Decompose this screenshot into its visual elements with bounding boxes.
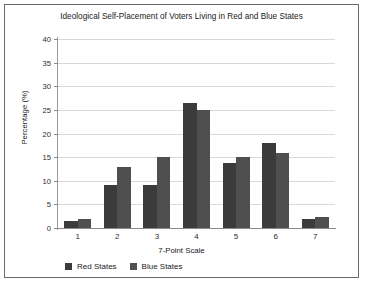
legend-label: Red States (77, 262, 117, 271)
y-tick-label: 35 (11, 58, 51, 67)
x-tick-label: 2 (102, 232, 132, 241)
legend-item-blue-states: Blue States (130, 262, 183, 271)
x-tick-label: 7 (300, 232, 330, 241)
bar-group (64, 39, 91, 228)
bar-blue-states-2 (117, 167, 131, 228)
legend-swatch-icon (65, 263, 72, 270)
bar-group (104, 39, 131, 228)
y-tick-mark (54, 228, 58, 229)
chart-title: Ideological Self-Placement of Voters Liv… (5, 12, 358, 21)
bar-blue-states-7 (315, 217, 329, 228)
x-tick-label: 4 (182, 232, 212, 241)
bar-red-states-3 (143, 185, 157, 228)
plot-area (58, 39, 335, 228)
legend-item-red-states: Red States (65, 262, 117, 271)
legend-swatch-icon (130, 263, 137, 270)
bar-blue-states-6 (276, 153, 290, 228)
bar-blue-states-1 (78, 219, 92, 228)
y-tick-label: 20 (11, 129, 51, 138)
y-tick-label: 5 (11, 200, 51, 209)
y-tick-label: 30 (11, 82, 51, 91)
x-tick-label: 3 (142, 232, 172, 241)
bar-group (223, 39, 250, 228)
y-tick-label: 15 (11, 153, 51, 162)
x-tick-label: 6 (261, 232, 291, 241)
y-tick-label: 25 (11, 105, 51, 114)
bar-red-states-5 (223, 163, 237, 228)
bar-red-states-2 (104, 185, 118, 228)
bar-group (183, 39, 210, 228)
x-tick-label: 5 (221, 232, 251, 241)
x-axis-line (57, 228, 336, 229)
y-tick-label: 40 (11, 35, 51, 44)
y-tick-label: 10 (11, 176, 51, 185)
bar-red-states-4 (183, 103, 197, 228)
bar-red-states-6 (262, 143, 276, 228)
bar-red-states-7 (302, 219, 316, 228)
bar-blue-states-4 (197, 110, 211, 228)
bar-group (262, 39, 289, 228)
bar-blue-states-3 (157, 157, 171, 228)
chart-figure: Ideological Self-Placement of Voters Liv… (4, 4, 359, 278)
x-axis-title: 7-Point Scale (5, 246, 358, 255)
bar-group (302, 39, 329, 228)
bar-group (143, 39, 170, 228)
x-tick-label: 1 (63, 232, 93, 241)
bar-blue-states-5 (236, 157, 250, 228)
bar-red-states-1 (64, 221, 78, 228)
y-tick-label: 0 (11, 224, 51, 233)
legend-label: Blue States (142, 262, 183, 271)
chart-legend: Red StatesBlue States (65, 262, 183, 271)
